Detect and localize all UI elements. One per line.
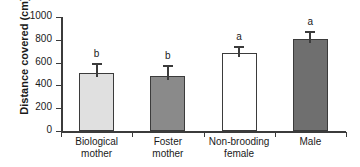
y-axis-title: Distance covered (cm) bbox=[18, 0, 30, 126]
error-bar-cap bbox=[92, 63, 102, 65]
error-bar-line bbox=[167, 65, 169, 79]
chart-figure: Distance covered (cm) 02004006008001000 … bbox=[0, 0, 360, 167]
significance-label: b bbox=[87, 48, 107, 59]
bar bbox=[222, 53, 257, 131]
y-tick-label: 600 bbox=[35, 56, 52, 67]
y-tick: 600 bbox=[56, 63, 61, 64]
y-axis-line bbox=[61, 17, 63, 131]
y-tick-label: 400 bbox=[35, 78, 52, 89]
plot-area: 02004006008001000 bbaa bbox=[61, 17, 346, 131]
bar bbox=[79, 73, 114, 131]
error-bar-cap bbox=[163, 65, 173, 67]
bar bbox=[150, 76, 185, 131]
significance-label: a bbox=[300, 16, 320, 27]
significance-label: b bbox=[158, 50, 178, 61]
error-bar-line bbox=[96, 63, 98, 77]
x-category-label-line: Male bbox=[260, 136, 360, 148]
y-tick: 400 bbox=[56, 85, 61, 86]
x-category-label: Male bbox=[260, 136, 360, 148]
y-tick: 200 bbox=[56, 108, 61, 109]
y-tick-label: 800 bbox=[35, 33, 52, 44]
y-tick-label: 200 bbox=[35, 101, 52, 112]
error-bar-cap bbox=[305, 31, 315, 33]
y-tick: 800 bbox=[56, 40, 61, 41]
y-tick-label: 0 bbox=[46, 124, 52, 135]
bar bbox=[293, 39, 328, 131]
x-category-label-line: female bbox=[189, 148, 289, 160]
y-tick-label: 1000 bbox=[30, 10, 52, 21]
y-tick: 1000 bbox=[56, 17, 61, 18]
significance-label: a bbox=[229, 31, 249, 42]
error-bar-cap bbox=[234, 46, 244, 48]
